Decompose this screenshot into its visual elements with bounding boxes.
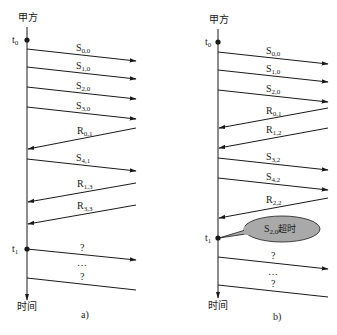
timeout-callout: S2,0超时	[219, 216, 320, 242]
message-label: R0,1	[77, 125, 93, 138]
message-label: S3,2	[266, 151, 281, 164]
sliding-window-diagram: 甲方 t0 S0,0 S1,0 S2,0 S3,0 R0,1 S4,1 R1,3…	[0, 0, 337, 335]
party-label-a: 甲方	[18, 11, 38, 23]
caption-a: a)	[81, 309, 89, 321]
message-label: S0,0	[76, 42, 91, 55]
ellipsis: …	[268, 266, 278, 277]
message-label: S3,0	[76, 100, 91, 113]
message-label: S2,0	[76, 80, 91, 93]
time-label-a: 时间	[17, 300, 37, 312]
party-label-b: 甲方	[209, 13, 229, 25]
message-label: R3,3	[77, 200, 93, 213]
t1-label-a: t1	[12, 243, 19, 256]
message-label: S1,0	[76, 60, 91, 73]
t0-dot-a	[24, 37, 29, 42]
t0-dot-b	[215, 39, 220, 44]
message-label: S2,0	[266, 83, 281, 96]
message-label: ?	[80, 271, 85, 282]
time-label-b: 时间	[208, 299, 228, 311]
panel-b: 甲方 t0 S0,0 S1,0 S2,0 R0,1 R1,2 S3,2 S4,2…	[205, 13, 328, 323]
t0-label-b: t0	[205, 36, 212, 49]
message-label: S0,0	[266, 45, 281, 58]
message-label: S4,1	[76, 152, 91, 165]
ellipsis: …	[77, 257, 87, 268]
message-label: S4,2	[266, 171, 281, 184]
message-label: R2,2	[266, 194, 282, 207]
message-label: R1,3	[77, 178, 93, 191]
message-label: ?	[80, 242, 85, 253]
t1-label-b: t1	[205, 232, 212, 245]
caption-b: b)	[273, 311, 281, 323]
message-label: R0,1	[266, 105, 282, 118]
t1-dot-b	[215, 235, 220, 240]
message-label: ?	[271, 278, 276, 289]
t0-label-a: t0	[12, 34, 19, 47]
panel-a: 甲方 t0 S0,0 S1,0 S2,0 S3,0 R0,1 S4,1 R1,3…	[12, 11, 136, 321]
callout-joint	[244, 226, 256, 235]
message-label: S1,0	[266, 63, 281, 76]
message-label: R1,2	[266, 124, 282, 137]
message-label: ?	[271, 250, 276, 261]
